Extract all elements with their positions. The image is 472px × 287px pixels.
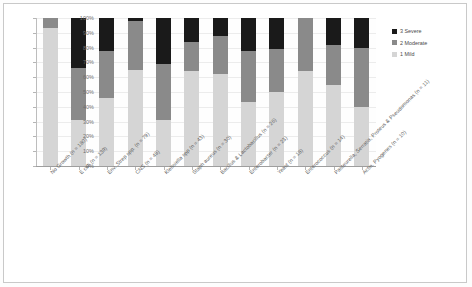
y-tick-mark: [33, 151, 36, 152]
bar-segment-mild: [156, 120, 171, 166]
bar-segment-moderate: [326, 45, 341, 85]
y-tick-mark: [33, 107, 36, 108]
y-axis-line: [36, 18, 37, 166]
bar-segment-mild: [43, 28, 58, 166]
legend-item[interactable]: 1 Mild: [392, 51, 464, 57]
y-tick-mark: [33, 166, 36, 167]
y-axis-tick-label: 100%: [60, 15, 94, 21]
legend-item[interactable]: 3 Severe: [392, 28, 464, 34]
bar-segment-severe: [213, 18, 228, 36]
bar-segment-mild: [241, 102, 256, 166]
bar-segment-moderate: [128, 21, 143, 70]
bar-segment-moderate: [99, 51, 114, 98]
y-tick-mark: [33, 33, 36, 34]
bar-column: [99, 18, 114, 166]
y-tick-mark: [33, 77, 36, 78]
bar-segment-moderate: [354, 48, 369, 107]
bar-column: [298, 18, 313, 166]
bar-column: [43, 18, 58, 166]
y-tick-mark: [33, 48, 36, 49]
y-tick-mark: [33, 136, 36, 137]
bar-segment-severe: [184, 18, 199, 42]
y-axis-tick-label: 90%: [60, 30, 94, 36]
bar-segment-severe: [326, 18, 341, 45]
bar-column: [156, 18, 171, 166]
legend-swatch-icon: [392, 40, 397, 45]
y-axis-tick-label: 40%: [60, 104, 94, 110]
legend-label: 1 Mild: [400, 51, 414, 57]
legend-label: 2 Moderate: [400, 40, 427, 46]
y-axis-tick-label: 20%: [60, 133, 94, 139]
bar-segment-moderate: [269, 49, 284, 92]
bar-segment-moderate: [43, 18, 58, 28]
bar-segment-moderate: [298, 18, 313, 71]
y-axis-tick-label: 80%: [60, 45, 94, 51]
bar-segment-severe: [128, 18, 143, 21]
y-axis-tick-label: 60%: [60, 74, 94, 80]
y-tick-mark: [33, 92, 36, 93]
y-axis-tick-label: 30%: [60, 119, 94, 125]
bar-segment-moderate: [213, 36, 228, 74]
bar-segment-severe: [354, 18, 369, 48]
legend-swatch-icon: [392, 52, 397, 57]
chart-legend: 3 Severe2 Moderate1 Mild: [392, 28, 464, 63]
y-tick-mark: [33, 62, 36, 63]
bar-segment-severe: [156, 18, 171, 64]
y-axis-tick-label: 70%: [60, 59, 94, 65]
bar-segment-moderate: [156, 64, 171, 120]
legend-item[interactable]: 2 Moderate: [392, 40, 464, 46]
bar-segment-severe: [269, 18, 284, 49]
y-tick-mark: [33, 18, 36, 19]
bar-segment-severe: [241, 18, 256, 51]
y-axis-tick-label: 50%: [60, 89, 94, 95]
bar-segment-moderate: [241, 51, 256, 103]
legend-swatch-icon: [392, 29, 397, 34]
bar-segment-severe: [99, 18, 114, 51]
y-tick-mark: [33, 122, 36, 123]
bar-segment-moderate: [184, 42, 199, 72]
chart-root: 0%10%20%30%40%50%60%70%80%90%100% No Gro…: [0, 0, 472, 287]
legend-label: 3 Severe: [400, 28, 422, 34]
